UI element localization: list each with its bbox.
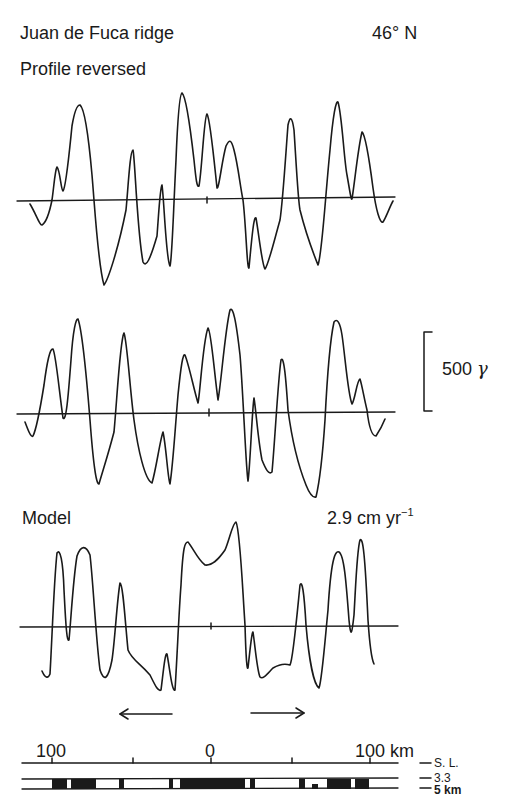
magnetization-blocks: [52, 779, 369, 789]
model-curve: [42, 522, 374, 690]
model-baseline: [20, 626, 398, 627]
spreading-arrow-right: [251, 708, 304, 718]
magnetic-anomaly-figure: [0, 0, 507, 807]
profile2-curve: [25, 309, 385, 497]
profile1-curve: [30, 93, 393, 285]
amplitude-scale-bracket: [424, 332, 432, 411]
profile2-baseline: [17, 412, 395, 414]
spreading-arrow-left: [120, 709, 172, 719]
layer-top-line: [22, 778, 398, 779]
profile1-baseline: [17, 197, 395, 201]
